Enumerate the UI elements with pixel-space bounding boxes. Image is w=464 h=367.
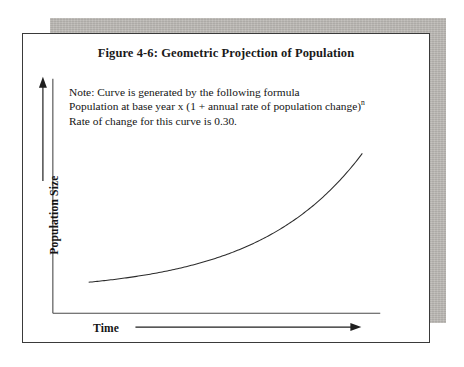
figure-frame: Figure 4-6: Geometric Projection of Popu…	[22, 33, 430, 343]
plot-canvas	[23, 34, 429, 342]
population-growth-curve	[89, 153, 363, 282]
figure-page: Figure 4-6: Geometric Projection of Popu…	[0, 0, 464, 367]
x-axis-arrow-icon	[350, 323, 361, 331]
y-axis-label: Population Size	[48, 160, 60, 270]
y-axis-arrow-icon	[39, 77, 47, 88]
x-axis-label: Time	[93, 322, 119, 334]
